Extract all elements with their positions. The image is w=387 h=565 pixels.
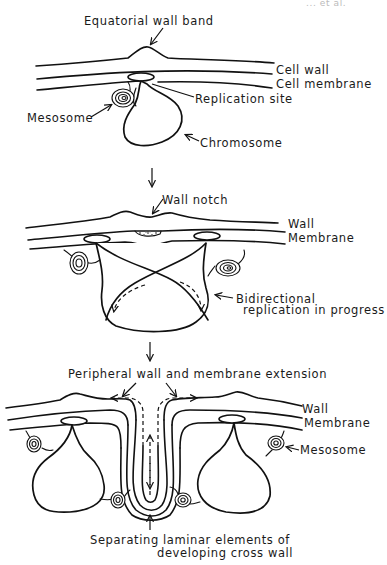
- pointer-mesosome-stage3: [287, 447, 299, 450]
- label-equatorial-wall-band: Equatorial wall band: [84, 14, 214, 28]
- stage-1: Equatorial wall band Cell wall Cell memb…: [27, 14, 372, 150]
- label-separating-line2: developing cross wall: [157, 546, 293, 560]
- cell-division-diagram: ... et al. Equatorial wall band Cell wal…: [0, 0, 387, 565]
- mesosome-stage3-far-right: [266, 431, 284, 456]
- wall-outer-left: [6, 393, 136, 420]
- label-chromosome: Chromosome: [200, 136, 282, 150]
- pointer-peripheral-right: [166, 383, 176, 396]
- label-bidirectional-line2: replication in progress: [243, 303, 385, 317]
- label-wall-stage2: Wall: [288, 217, 314, 231]
- cell-wall-outer-line: [36, 47, 274, 66]
- replication-site-right-stage3: [219, 415, 245, 423]
- pointer-bidirectional: [216, 295, 233, 298]
- pointer-peripheral-left: [123, 383, 136, 396]
- label-mesosome-stage1: Mesosome: [27, 111, 93, 125]
- pointer-equatorial-wall-band: [151, 28, 163, 44]
- label-cell-wall: Cell wall: [276, 63, 329, 77]
- stage-2: Wall notch Wall Membrane: [26, 193, 385, 332]
- replication-site-left: [84, 235, 110, 243]
- mesosome-stage3-center-right: [170, 487, 200, 507]
- label-membrane-stage3: Membrane: [304, 416, 370, 430]
- label-separating-line1: Separating laminar elements of: [90, 533, 290, 547]
- label-wall-stage3: Wall: [302, 402, 328, 416]
- label-wall-notch: Wall notch: [162, 193, 228, 207]
- mesosome-stage3-far-left: [26, 431, 53, 452]
- pointer-mesosome-stage1: [91, 105, 111, 117]
- mesosome-stage1: [112, 82, 136, 107]
- label-membrane-stage2: Membrane: [288, 231, 354, 245]
- cell-membrane-line: [37, 81, 272, 90]
- pointer-chromosome: [186, 135, 199, 141]
- label-cell-membrane: Cell membrane: [276, 77, 372, 91]
- label-peripheral-extension: Peripheral wall and membrane extension: [68, 367, 327, 381]
- daughter-chromosome-right: [198, 423, 270, 513]
- stage-3: Peripheral wall and membrane extension: [6, 367, 370, 560]
- daughter-chromosome-left: [33, 425, 105, 512]
- mesosome-stage2-left: [64, 250, 100, 274]
- label-mesosome-stage3: Mesosome: [300, 443, 366, 457]
- replication-site-left-stage3: [61, 417, 87, 425]
- header-fragment: ... et al.: [306, 0, 346, 8]
- mesosome-stage2-right: [208, 250, 245, 276]
- wall-outer-line: [26, 211, 278, 228]
- chromosome-replicating: [96, 243, 208, 332]
- replication-site-right: [194, 232, 220, 240]
- label-replication-site: Replication site: [195, 92, 293, 106]
- replication-site: [128, 73, 154, 81]
